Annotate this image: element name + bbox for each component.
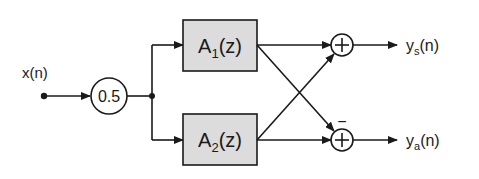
block-a1: A1(z)	[183, 20, 257, 71]
gain-label: 0.5	[98, 88, 120, 105]
output-ya-label: ya(n)	[406, 132, 440, 152]
input-node: x(n)	[22, 64, 48, 99]
a1-to-bottom-adder	[257, 45, 334, 131]
block-a2: A2(z)	[183, 114, 257, 165]
output-ys-label: ys(n)	[406, 37, 439, 57]
gain-node: 0.5	[91, 78, 127, 114]
minus-sign-label: −	[337, 113, 346, 130]
adder-top	[331, 34, 353, 56]
block-diagram: x(n) 0.5 A1(z) A2(z) − ys(n)	[0, 0, 479, 179]
input-label: x(n)	[22, 64, 48, 81]
a2-to-top-adder	[257, 54, 334, 140]
adder-bottom: −	[331, 113, 353, 151]
